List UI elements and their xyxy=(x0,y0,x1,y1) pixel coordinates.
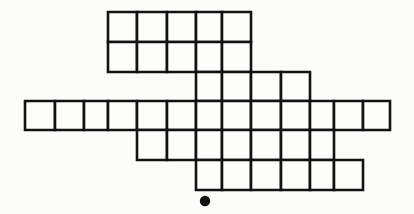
grid-cell xyxy=(281,130,310,160)
grid-cell xyxy=(137,101,167,130)
grid-row-4 xyxy=(25,101,390,130)
figure-canvas xyxy=(0,0,414,214)
dot-layer xyxy=(200,196,210,206)
grid-cell xyxy=(137,42,167,72)
grid-cell xyxy=(281,160,310,190)
grid-cell xyxy=(222,12,251,42)
grid-cell xyxy=(167,130,196,160)
grid-cell xyxy=(196,160,222,190)
grid-cell xyxy=(167,101,196,130)
grid-cell xyxy=(196,72,222,101)
grid-cell xyxy=(108,12,137,42)
grid-cell xyxy=(196,130,222,160)
grid-row-1 xyxy=(108,12,251,42)
grid-row-6 xyxy=(196,160,363,190)
grid-cell xyxy=(310,160,334,190)
grid-cell xyxy=(167,12,196,42)
grid-cell xyxy=(108,101,137,130)
grid-cell xyxy=(222,42,251,72)
grid-cell xyxy=(251,160,281,190)
grid-diagram xyxy=(0,0,414,214)
grid-cell xyxy=(222,130,251,160)
grid-cell xyxy=(251,130,281,160)
grid-cell xyxy=(251,72,281,101)
grid-cell xyxy=(167,42,196,72)
grid-cell xyxy=(334,101,363,130)
grid-row-2 xyxy=(108,42,251,72)
grid-row-3 xyxy=(196,72,310,101)
grid-cell xyxy=(334,160,363,190)
grid-cell xyxy=(108,42,137,72)
grid-cell xyxy=(251,101,281,130)
grid-cell xyxy=(55,101,84,130)
grid-cell xyxy=(196,101,222,130)
grid-cells-layer xyxy=(25,12,390,190)
grid-cell xyxy=(137,130,167,160)
grid-cell xyxy=(196,12,222,42)
grid-cell xyxy=(281,101,310,130)
grid-cell xyxy=(310,130,334,160)
grid-cell xyxy=(222,101,251,130)
grid-cell xyxy=(196,42,222,72)
grid-cell xyxy=(363,101,390,130)
grid-cell xyxy=(310,101,334,130)
grid-cell xyxy=(137,12,167,42)
grid-cell xyxy=(25,101,55,130)
grid-cell xyxy=(281,72,310,101)
reference-dot xyxy=(200,196,210,206)
grid-cell xyxy=(84,101,108,130)
grid-row-5 xyxy=(137,130,334,160)
grid-cell xyxy=(222,72,251,101)
grid-cell xyxy=(222,160,251,190)
